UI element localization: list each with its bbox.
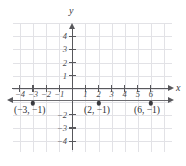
- x-tick-label: −3: [28, 90, 38, 99]
- y-tick-label: 1: [55, 71, 67, 80]
- coordinate-plane-figure: x y −4−3−2−11234564321−2−3−4 (−3, −1) (2…: [0, 0, 186, 166]
- y-tick-label: −4: [55, 137, 67, 146]
- y-tick: [69, 75, 76, 76]
- y-tick: [69, 62, 76, 63]
- hline-arrow-right: [168, 97, 174, 103]
- grid-line-horizontal: [13, 115, 172, 116]
- x-tick-label: 3: [109, 90, 113, 99]
- line-y-equals-negative-one: [12, 100, 169, 101]
- x-axis-label: x: [176, 82, 180, 93]
- x-axis-arrow-right: [168, 85, 174, 91]
- x-tick-label: 2: [96, 90, 100, 99]
- x-tick-label: 5: [136, 90, 140, 99]
- x-tick-label: 1: [83, 90, 87, 99]
- y-tick: [69, 141, 76, 142]
- x-tick-label: 6: [149, 90, 153, 99]
- y-tick: [69, 49, 76, 50]
- hline-arrow-left: [7, 97, 13, 103]
- y-tick-label: 4: [55, 32, 67, 41]
- grid-line-horizontal: [13, 76, 172, 77]
- y-tick-label: 2: [55, 58, 67, 67]
- y-tick: [69, 36, 76, 37]
- y-axis-label: y: [69, 5, 73, 16]
- y-tick-label: 3: [55, 45, 67, 54]
- x-tick-label: −1: [54, 90, 64, 99]
- grid-line-horizontal: [13, 36, 172, 37]
- point-label-b: (2, −1): [84, 105, 110, 115]
- grid-line-horizontal: [13, 141, 172, 142]
- grid-line-horizontal: [13, 63, 172, 64]
- y-tick: [69, 127, 76, 128]
- x-tick-label: −4: [15, 90, 25, 99]
- grid-line-horizontal: [13, 49, 172, 50]
- y-axis: [72, 28, 73, 150]
- point-label-a: (−3, −1): [14, 105, 45, 115]
- y-tick: [69, 114, 76, 115]
- grid-line-horizontal: [13, 23, 172, 24]
- x-tick-label: 4: [123, 90, 127, 99]
- grid-line-horizontal: [13, 128, 172, 129]
- point-label-c: (6, −1): [134, 105, 160, 115]
- y-tick-label: −2: [55, 110, 67, 119]
- y-axis-arrow-up: [69, 23, 75, 29]
- x-tick-label: −2: [41, 90, 51, 99]
- y-tick-label: −3: [55, 124, 67, 133]
